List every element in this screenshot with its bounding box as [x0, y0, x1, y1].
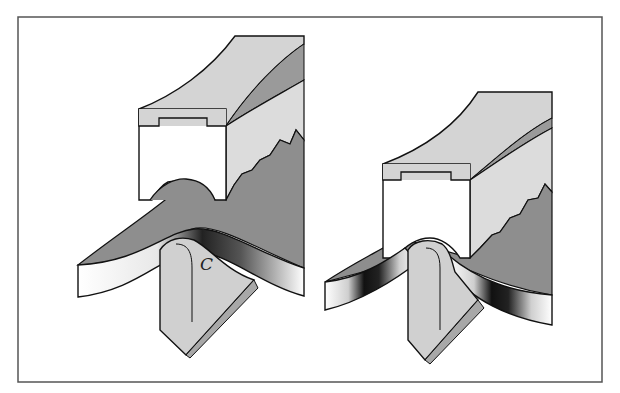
panel-right: [325, 92, 552, 364]
diagram-figure: C: [0, 0, 620, 393]
blade-label-left: C: [200, 254, 213, 274]
diagram-canvas: C: [0, 0, 620, 393]
panel-left: C: [78, 36, 304, 358]
